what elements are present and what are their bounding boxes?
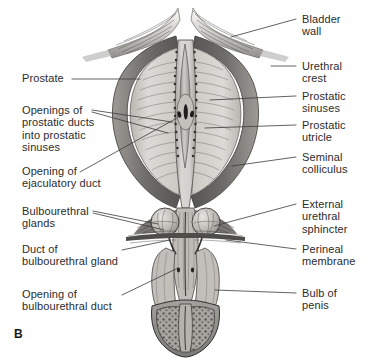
label-prostatic-sinuses: Prostatic sinuses xyxy=(302,90,346,115)
label-bulb-of-penis: Bulb of penis xyxy=(302,287,337,312)
label-prostatic-utricle: Prostatic utricle xyxy=(302,119,346,144)
label-prostatic-ducts: Openings of prostatic ducts into prostat… xyxy=(22,104,94,154)
label-external-sphincter: External urethral sphincter xyxy=(302,198,348,235)
label-bulbourethral-duct-opening: Opening of bulbourethral duct xyxy=(22,288,112,313)
label-perineal-membrane: Perineal membrane xyxy=(302,243,355,268)
label-bulbourethral-glands: Bulbourethral glands xyxy=(22,205,89,230)
label-urethral-crest: Urethral crest xyxy=(302,60,342,85)
label-bladder-wall: Bladder wall xyxy=(302,13,341,38)
panel-letter: B xyxy=(14,327,23,341)
label-bulbourethral-duct: Duct of bulbourethral gland xyxy=(22,243,118,268)
bulbourethral-duct-opening-right xyxy=(191,268,194,273)
label-ejaculatory-duct: Opening of ejaculatory duct xyxy=(22,165,101,190)
label-seminal-colliculus: Seminal colliculus xyxy=(302,151,348,176)
label-prostate: Prostate xyxy=(22,72,64,84)
